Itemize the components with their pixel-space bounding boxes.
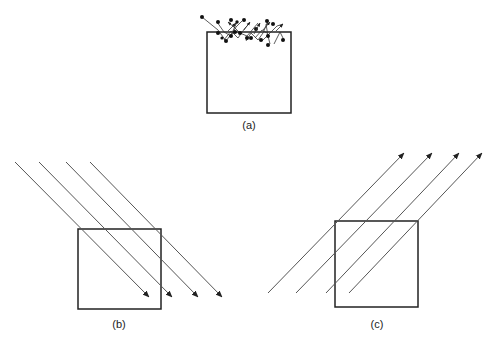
panel-c — [268, 153, 482, 307]
emerging-rays — [268, 153, 482, 293]
label-a: (a) — [242, 119, 255, 131]
panel-b — [15, 162, 222, 309]
panel-a — [200, 15, 291, 113]
label-b: (b) — [112, 318, 125, 330]
diagram-canvas — [0, 0, 498, 344]
label-c: (c) — [371, 318, 384, 330]
box-a — [207, 32, 291, 113]
